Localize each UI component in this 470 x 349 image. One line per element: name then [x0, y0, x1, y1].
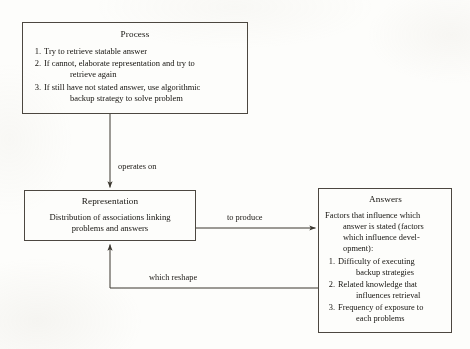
answers-factor-line: Related knowledge that	[338, 280, 417, 289]
answers-factor-number: 2.	[325, 279, 335, 290]
process-step-text: Try to retrieve statable answer	[44, 46, 240, 58]
answers-intro-line: answer is stated (factors	[325, 221, 446, 232]
process-step-line: If still have not stated answer, use alg…	[44, 82, 200, 92]
process-step-item: 3. If still have not stated answer, use …	[30, 82, 240, 105]
process-step-text: If still have not stated answer, use alg…	[44, 82, 240, 105]
answers-factor-line-cont: influences retrieval	[338, 290, 446, 301]
answers-factor-line: Difficulty of executing	[338, 257, 415, 266]
edge-answers-to-representation	[110, 245, 318, 289]
edge-label-to-produce: to produce	[227, 214, 263, 222]
process-step-line: Try to retrieve statable answer	[44, 46, 147, 56]
answers-box-title: Answers	[325, 194, 446, 206]
process-step-number: 3.	[30, 82, 41, 94]
answers-factor-line-cont: backup strategies	[338, 267, 446, 278]
process-step-number: 1.	[30, 46, 41, 58]
process-step-number: 2.	[30, 58, 41, 70]
representation-box-body: Distribution of associations linking pro…	[31, 212, 189, 235]
answers-intro-line: opment):	[325, 243, 446, 254]
process-box: Process 1. Try to retrieve statable answ…	[22, 22, 248, 114]
representation-line: Distribution of associations linking	[31, 212, 189, 223]
representation-box-title: Representation	[31, 196, 189, 208]
answers-intro-line: Factors that influence which	[325, 210, 446, 221]
process-step-list: 1. Try to retrieve statable answer 2. If…	[30, 46, 240, 106]
representation-box: Representation Distribution of associati…	[24, 190, 196, 241]
answers-box-intro: Factors that influence which answer is s…	[325, 210, 446, 255]
answers-factor-item: 2. Related knowledge that influences ret…	[325, 279, 446, 302]
process-step-text: If cannot, elaborate representation and …	[44, 58, 240, 81]
process-step-item: 1. Try to retrieve statable answer	[30, 46, 240, 58]
answers-factor-number: 1.	[325, 256, 335, 267]
representation-line: problems and answers	[31, 223, 189, 234]
edge-label-which-reshape: which reshape	[149, 274, 197, 282]
answers-factor-line-cont: each problems	[338, 313, 446, 324]
flow-diagram: operates on to produce which reshape Pro…	[0, 0, 470, 349]
answers-factor-text: Frequency of exposure to each problems	[338, 302, 446, 325]
process-box-title: Process	[30, 29, 240, 41]
answers-factor-number: 3.	[325, 302, 335, 313]
answers-factor-list: 1. Difficulty of executing backup strate…	[325, 256, 446, 325]
answers-intro-line: which influence devel-	[325, 232, 446, 243]
edge-label-operates-on: operates on	[118, 163, 156, 171]
answers-factor-item: 1. Difficulty of executing backup strate…	[325, 256, 446, 279]
process-step-item: 2. If cannot, elaborate representation a…	[30, 58, 240, 81]
answers-factor-line: Frequency of exposure to	[338, 303, 423, 312]
process-step-line-cont: retrieve again	[44, 69, 240, 81]
process-step-line-cont: backup strategy to solve problem	[44, 93, 240, 105]
answers-factor-item: 3. Frequency of exposure to each problem…	[325, 302, 446, 325]
answers-box: Answers Factors that influence which ans…	[318, 188, 452, 333]
answers-factor-text: Related knowledge that influences retrie…	[338, 279, 446, 302]
process-step-line: If cannot, elaborate representation and …	[44, 58, 195, 68]
answers-factor-text: Difficulty of executing backup strategie…	[338, 256, 446, 279]
